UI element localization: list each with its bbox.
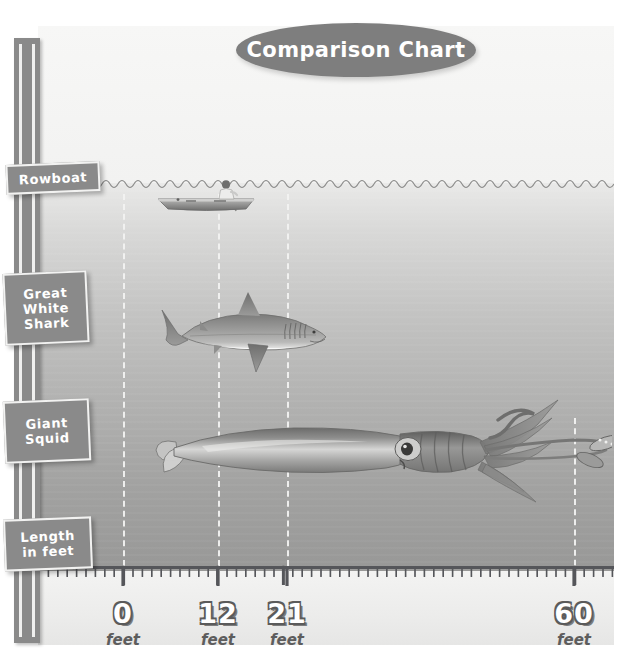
waterline-wave — [38, 172, 614, 194]
shark-illustration — [156, 288, 336, 384]
tick-unit-21: feet — [242, 631, 332, 645]
rowboat-illustration — [156, 178, 256, 216]
sign-great-white-shark[interactable]: Great White Shark — [2, 270, 89, 346]
sign-rowboat-inner: Rowboat — [5, 161, 100, 195]
guide-line-12ft — [218, 194, 220, 576]
sign-giant-squid-label: Giant Squid — [24, 415, 70, 447]
tick-value-21: 21 — [242, 599, 332, 629]
tick-value-60: 60 — [529, 599, 614, 629]
sign-length-in-feet-inner: Length in feet — [3, 516, 93, 571]
tick-value-0: 0 — [78, 599, 168, 629]
sign-rowboat-label: Rowboat — [19, 169, 88, 187]
tick-unit-0: feet — [78, 631, 168, 645]
comparison-chart-page: 0 feet 12 feet 21 feet 60 feet Rowboat G… — [0, 0, 636, 664]
guide-line-0ft — [123, 194, 125, 576]
ruler-tick-row — [38, 566, 614, 592]
tick-label-0: 0 feet — [78, 599, 168, 645]
guide-line-21ft — [287, 194, 289, 576]
sign-great-white-shark-label: Great White Shark — [22, 284, 70, 331]
page-title-badge: Comparison Chart — [236, 23, 476, 77]
sign-rowboat[interactable]: Rowboat — [5, 161, 100, 195]
sign-giant-squid-inner: Giant Squid — [3, 398, 92, 464]
sign-length-in-feet[interactable]: Length in feet — [3, 516, 93, 571]
tick-label-60: 60 feet — [529, 599, 614, 645]
tick-unit-60: feet — [529, 631, 614, 645]
scene-panel: 0 feet 12 feet 21 feet 60 feet — [38, 26, 614, 645]
page-title: Comparison Chart — [247, 38, 466, 62]
sign-giant-squid[interactable]: Giant Squid — [3, 398, 92, 464]
sign-great-white-shark-inner: Great White Shark — [2, 270, 89, 346]
squid-illustration — [154, 398, 612, 510]
tick-label-21: 21 feet — [242, 599, 332, 645]
sign-length-in-feet-label: Length in feet — [20, 528, 76, 560]
